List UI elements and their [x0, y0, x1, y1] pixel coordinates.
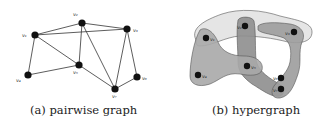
caption-hypergraph: (b) hypergraph [212, 103, 300, 117]
edge-v2-v5 [79, 23, 82, 65]
edge-v3-v7 [115, 29, 127, 89]
pairwise-nodes [24, 19, 140, 92]
edge-v5-v7 [79, 65, 115, 89]
edge-v3-v6 [127, 29, 137, 77]
pairwise-graph [28, 23, 137, 89]
label-v5: v₅ [73, 69, 78, 75]
label-v3: v₃ [133, 27, 138, 33]
label-v1: v₁ [22, 32, 27, 38]
edge-v2-v7 [82, 23, 115, 89]
node-v2 [78, 19, 85, 26]
hlabel-v4: v₄ [202, 73, 207, 79]
edge-v4-v5 [28, 65, 79, 75]
label-v4: v₄ [16, 77, 21, 83]
hlabel-v6: v₆ [273, 75, 278, 81]
hnode-v1 [203, 35, 209, 41]
node-v4 [24, 71, 31, 78]
hnode-v5 [244, 63, 250, 69]
hypergraph [190, 10, 312, 98]
node-v6 [133, 73, 140, 80]
caption-pairwise-graph: (a) pairwise graph [30, 103, 137, 117]
label-v7: v₇ [112, 93, 117, 99]
hnode-v6 [278, 75, 284, 81]
node-v3 [123, 25, 130, 32]
edge-v2-v3 [82, 23, 127, 29]
edge-v1-v4 [28, 35, 35, 75]
hnode-v7 [278, 86, 284, 92]
hlabel-v7: v₇ [273, 87, 278, 93]
hnode-v2 [242, 23, 248, 29]
label-v6: v₆ [142, 75, 147, 81]
edge-v1-v5 [35, 35, 79, 65]
node-v1 [31, 31, 38, 38]
hlabel-v2: v₂ [237, 24, 242, 30]
hlabel-v3: v₃ [285, 30, 290, 36]
hnode-v3 [291, 29, 297, 35]
edge-v6-v7 [115, 77, 137, 89]
node-v7 [111, 85, 118, 92]
node-v5 [75, 61, 82, 68]
hlabel-v5: v₅ [251, 64, 256, 70]
hlabel-v1: v₁ [210, 36, 215, 42]
label-v2: v₂ [73, 11, 78, 17]
hnode-v4 [195, 72, 201, 78]
